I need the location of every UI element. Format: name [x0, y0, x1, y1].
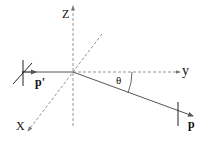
- angle-label: θ: [116, 74, 121, 86]
- incoming-vector-label: p': [35, 75, 45, 89]
- outgoing-vector-label: p: [188, 117, 195, 131]
- z-axis-label: Z: [62, 7, 69, 21]
- x-axis-label: X: [16, 119, 25, 133]
- y-axis-label: y: [182, 63, 189, 78]
- scattering-diagram: Z y X p' p θ: [0, 0, 211, 141]
- outgoing-vector: [73, 72, 193, 116]
- angle-arc: [128, 72, 132, 93]
